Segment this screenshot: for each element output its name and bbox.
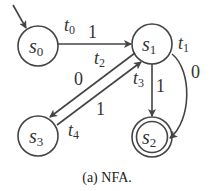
svg-text:1: 1 [88, 22, 97, 42]
svg-text:t4: t4 [68, 120, 79, 142]
state-s1: s1 [132, 24, 172, 64]
svg-text:t1: t1 [178, 33, 189, 55]
transition-t3: t3 1 [133, 64, 165, 116]
state-s0: s0 [18, 26, 58, 66]
svg-text:t3: t3 [133, 68, 144, 90]
figure-caption: (a) NFA. [0, 170, 214, 186]
state-s3: s3 [18, 116, 58, 156]
svg-text:t2: t2 [94, 48, 105, 70]
transition-t1: t1 0 [170, 33, 200, 138]
svg-text:0: 0 [191, 62, 200, 82]
state-s1-label: s1 [142, 33, 156, 57]
transition-t0: t0 1 [58, 15, 131, 44]
svg-text:1: 1 [96, 99, 105, 119]
svg-text:t0: t0 [64, 15, 75, 37]
svg-text:0: 0 [74, 69, 83, 89]
state-s2: s2 [132, 117, 172, 157]
state-s0-label: s0 [29, 35, 43, 59]
transition-t2: t2 0 [50, 48, 135, 117]
state-s3-label: s3 [29, 125, 43, 149]
svg-text:1: 1 [156, 76, 165, 96]
initial-arrow [13, 5, 26, 28]
nfa-diagram: s0 s1 s2 s3 t0 1 t1 0 t2 0 t4 1 [0, 0, 214, 191]
state-s2-label: s2 [142, 126, 156, 150]
